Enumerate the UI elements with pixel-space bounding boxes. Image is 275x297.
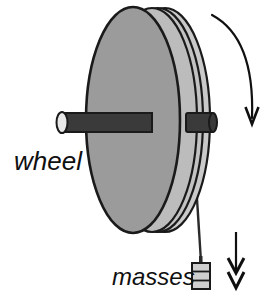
- axle-rod: [62, 113, 152, 132]
- wheel-and-masses-figure: wheel masses: [0, 0, 275, 297]
- axle-right-stub: [186, 113, 217, 132]
- diagram-canvas: wheel masses: [0, 0, 275, 297]
- axle-right-cap: [209, 113, 217, 132]
- wheel-label: wheel: [14, 146, 83, 176]
- masses-label: masses: [112, 263, 195, 290]
- mass-body: [192, 263, 210, 289]
- axle-end-cap: [57, 112, 68, 133]
- axle-left-shaft: [57, 112, 153, 133]
